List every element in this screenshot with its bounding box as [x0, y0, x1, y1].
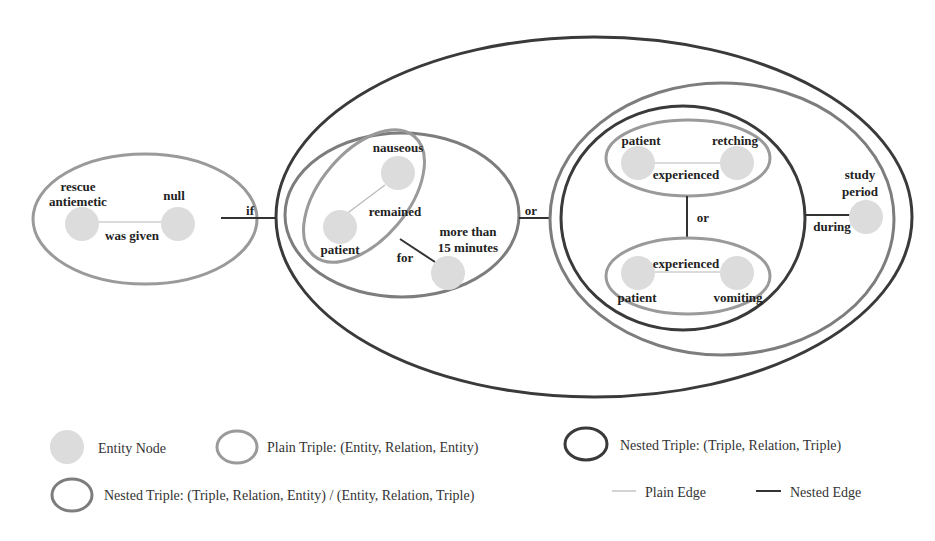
label-experienced-1: experienced	[653, 167, 720, 182]
label-patient-1: patient	[321, 242, 361, 257]
label-period: period	[842, 184, 879, 199]
entity-node-null	[161, 207, 195, 241]
label-null: null	[163, 188, 185, 203]
entity-node-nauseous	[381, 156, 415, 190]
label-during: during	[813, 219, 851, 234]
label-retching: retching	[712, 133, 758, 148]
label-was-given: was given	[105, 228, 160, 243]
label-for: for	[397, 250, 414, 265]
legend-nested-triple-te-icon	[52, 479, 92, 511]
legend-plain-triple-icon	[217, 431, 257, 463]
label-remained: remained	[369, 204, 422, 219]
label-antiemetic: antiemetic	[49, 194, 107, 209]
label-or-inner: or	[697, 210, 710, 225]
nested-for-group: nauseous patient remained for more than …	[280, 108, 519, 297]
entity-node-more-than-15-minutes	[431, 256, 465, 290]
label-experienced-2: experienced	[653, 256, 720, 271]
entity-node-retching	[720, 146, 754, 180]
legend-nested-triple-tt-icon	[565, 428, 607, 460]
entity-node-vomiting	[720, 256, 754, 290]
entity-node-patient-1	[323, 210, 357, 244]
legend-plain-triple-label: Plain Triple: (Entity, Relation, Entity)	[267, 440, 479, 456]
nested-during-group: patient retching experienced or experien…	[550, 83, 894, 355]
legend-plain-edge-label: Plain Edge	[645, 485, 706, 500]
label-patient-2: patient	[622, 133, 662, 148]
nested-or-ellipse	[561, 106, 805, 330]
legend: Entity Node Plain Triple: (Entity, Relat…	[50, 428, 861, 511]
nested-triple-diagram: rescue antiemetic null was given if naus…	[0, 0, 935, 541]
label-vomiting: vomiting	[713, 290, 763, 305]
label-study: study	[845, 167, 876, 182]
label-more-than: more than	[439, 224, 497, 239]
legend-entity-node-label: Entity Node	[98, 441, 166, 456]
entity-node-patient-2	[621, 146, 655, 180]
entity-node-patient-3	[621, 256, 655, 290]
label-rescue: rescue	[60, 179, 95, 194]
label-if: if	[246, 203, 255, 218]
label-nauseous: nauseous	[373, 140, 424, 155]
legend-entity-node-icon	[50, 430, 84, 464]
label-or-outer: or	[525, 203, 538, 218]
legend-nested-triple-tt-label: Nested Triple: (Triple, Relation, Triple…	[620, 438, 842, 454]
entity-node-study-period	[849, 200, 883, 234]
label-15-minutes: 15 minutes	[438, 240, 498, 255]
label-patient-3: patient	[618, 290, 658, 305]
legend-nested-triple-te-label: Nested Triple: (Triple, Relation, Entity…	[104, 488, 475, 504]
entity-node-rescue-antiemetic	[65, 207, 99, 241]
legend-nested-edge-label: Nested Edge	[790, 485, 861, 500]
